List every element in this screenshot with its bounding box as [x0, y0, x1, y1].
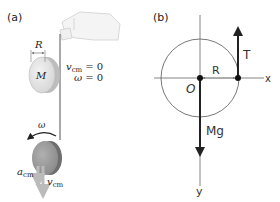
mass-label: M	[35, 70, 47, 81]
radius-label-a: R	[34, 39, 43, 50]
weight-label: Mg	[206, 124, 224, 138]
omega-falling-label: ω	[38, 120, 46, 130]
panel-a-label: (a)	[7, 11, 22, 24]
contact-point	[235, 75, 241, 81]
origin-label: O	[186, 82, 195, 96]
center-point	[197, 75, 203, 81]
omega-rotation-arrow	[28, 133, 56, 139]
tension-label: T	[242, 48, 251, 62]
hand-icon	[60, 12, 120, 40]
panel-b-label: (b)	[153, 11, 169, 24]
panel-b: (b) R T Mg O x y	[153, 11, 271, 198]
vcm-falling-label: vcm	[47, 176, 64, 189]
omega-initial: ω= 0	[74, 72, 103, 83]
acm-label: acm	[17, 166, 34, 179]
y-axis-label: y	[196, 185, 203, 198]
yoyo-diagram: (a) M R vcm= 0 ω= 0 ω	[0, 0, 280, 202]
x-axis-label: x	[265, 73, 271, 84]
radius-label-b: R	[212, 64, 220, 77]
panel-a: (a) M R vcm= 0 ω= 0 ω	[7, 11, 120, 196]
